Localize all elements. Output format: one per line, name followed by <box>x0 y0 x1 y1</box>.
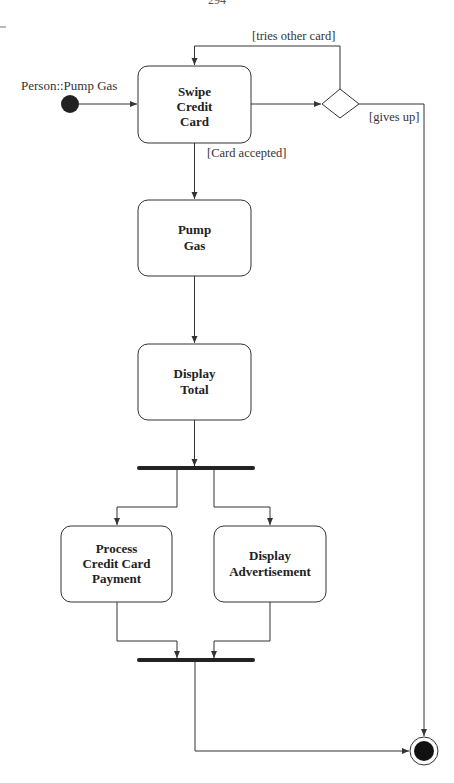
activity-label-line: Credit <box>177 99 214 114</box>
activity-display-advertisement: Display Advertisement <box>214 526 326 602</box>
activity-swipe-credit-card: Swipe Credit Card <box>138 66 251 143</box>
activity-display-total: Display Total <box>138 344 251 420</box>
final-node-icon <box>410 737 438 765</box>
initial-node-label: Person::Pump Gas <box>21 78 117 93</box>
initial-node-icon <box>61 95 79 113</box>
activity-label-line: Total <box>180 382 209 397</box>
activity-process-credit-card-payment: Process Credit Card Payment <box>61 526 172 602</box>
flow-join-to-final <box>195 662 409 751</box>
activity-label-line: Advertisement <box>229 564 311 579</box>
flow-gives-up <box>359 104 424 736</box>
activity-label-line: Gas <box>184 238 206 253</box>
flow-display-ad-to-join <box>214 602 270 658</box>
decision-node-icon <box>322 89 359 118</box>
activity-label-line: Process <box>96 541 138 556</box>
flow-fork-to-process-payment <box>117 470 177 525</box>
guard-card-accepted: [Card accepted] <box>207 146 286 160</box>
activity-label-line: Payment <box>92 571 142 586</box>
activity-label-line: Credit Card <box>82 556 151 571</box>
activity-pump-gas: Pump Gas <box>138 200 251 276</box>
flow-process-payment-to-join <box>117 602 177 658</box>
activity-label-line: Pump <box>178 222 211 237</box>
activity-diagram: Person::Pump Gas Swipe Credit Card [trie… <box>0 0 454 783</box>
activity-label-line: Display <box>249 548 291 563</box>
activity-label-line: Display <box>174 366 216 381</box>
flow-fork-to-display-ad <box>214 470 270 525</box>
activity-label-line: Swipe <box>178 84 211 99</box>
activity-label-line: Card <box>180 114 210 129</box>
guard-tries-other-card: [tries other card] <box>252 29 335 43</box>
guard-gives-up: [gives up] <box>369 110 419 124</box>
